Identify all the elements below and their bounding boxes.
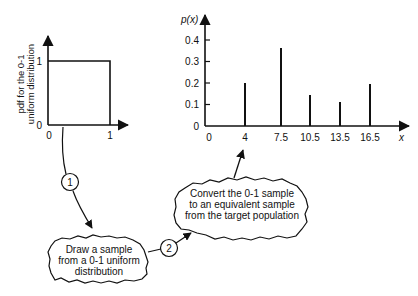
- right-x-label: x: [398, 132, 405, 143]
- right-x-tick-0: 0: [206, 132, 212, 143]
- step-1-number: 1: [67, 177, 73, 188]
- uniform-pdf-line: [48, 61, 110, 125]
- right-y-tick-0.1: 0.1: [185, 99, 199, 110]
- convert-sample-cloud: Convert the 0-1 sample to an equivalent …: [174, 177, 308, 240]
- right-x-tick-10.5: 10.5: [300, 132, 320, 143]
- cloud1-line2: from a 0-1 uniform: [58, 255, 140, 266]
- cloud2-line3: from the target population: [185, 210, 299, 221]
- right-y-label: p(x): [180, 14, 198, 25]
- step-2-number: 2: [166, 243, 172, 254]
- cloud1-line1: Draw a sample: [66, 244, 133, 255]
- target-distribution-chart: 0 0.1 0.2 0.3 0.4 p(x) 0 4 7.5 10.5 13.5…: [180, 14, 409, 143]
- cloud1-line3: distribution: [75, 266, 123, 277]
- left-y-tick-1: 1: [36, 56, 42, 67]
- right-x-tick-7.5: 7.5: [274, 132, 288, 143]
- right-x-tick-4: 4: [242, 132, 248, 143]
- left-x-tick-1: 1: [107, 130, 113, 141]
- left-x-tick-0: 0: [46, 130, 52, 141]
- right-y-tick-0: 0: [193, 121, 199, 132]
- right-y-tick-0.3: 0.3: [185, 56, 199, 67]
- right-x-tick-16.5: 16.5: [360, 132, 380, 143]
- left-y-label-line2: uniform distribution: [25, 44, 36, 124]
- left-y-tick-0: 0: [36, 120, 42, 131]
- step-1-connector: 1: [62, 127, 93, 228]
- cloud2-line1: Convert the 0-1 sample: [190, 188, 294, 199]
- cloud2-line2: to an equivalent sample: [189, 199, 295, 210]
- draw-sample-cloud: Draw a sample from a 0-1 uniform distrib…: [48, 235, 148, 283]
- right-y-tick-0.4: 0.4: [185, 35, 199, 46]
- step-2-connector: 2: [148, 233, 191, 257]
- result-arrow: [234, 150, 243, 178]
- right-y-tick-0.2: 0.2: [185, 78, 199, 89]
- uniform-pdf-chart: 1 0 0 1 pdf for the 0-1 uniform distribu…: [15, 36, 128, 141]
- monte-carlo-sampling-diagram: 1 0 0 1 pdf for the 0-1 uniform distribu…: [0, 0, 418, 296]
- right-x-tick-13.5: 13.5: [330, 132, 350, 143]
